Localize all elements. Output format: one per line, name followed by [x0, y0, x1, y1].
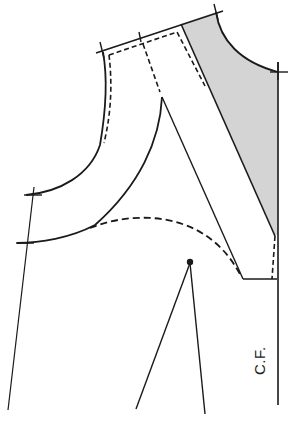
dashed-style-line	[90, 218, 241, 276]
side-seam-line	[8, 187, 34, 410]
shaded-panel	[181, 12, 278, 235]
dart-legs	[136, 263, 205, 414]
inner-curve	[17, 97, 162, 243]
armhole-curve	[26, 52, 106, 195]
center-front-label: C.F.	[251, 346, 268, 375]
